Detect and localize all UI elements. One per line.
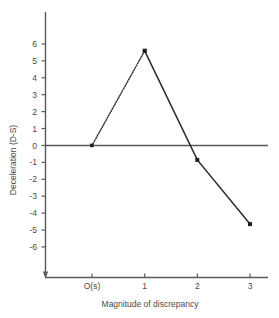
chart-container: 6 5 4 3 2 1 0 -1 -2 -3 -4 -5 -6 O(s) 1 2… xyxy=(0,0,279,318)
y-tick-label: 5 xyxy=(32,56,37,66)
y-tick-labels: 6 5 4 3 2 1 0 -1 -2 -3 -4 -5 -6 xyxy=(29,39,37,252)
x-tick-label: 1 xyxy=(142,281,147,291)
y-tick-label: -4 xyxy=(29,208,37,218)
y-tick-label: 4 xyxy=(32,73,37,83)
series-segment-solid xyxy=(145,51,250,224)
y-tick-label: 6 xyxy=(32,39,37,49)
x-tick-labels: O(s) 1 2 3 xyxy=(84,281,253,291)
y-axis-title: Deceleration (D-S) xyxy=(8,125,18,196)
y-tick-label: 2 xyxy=(32,107,37,117)
data-point-marker xyxy=(90,144,94,148)
y-tick-label: 0 xyxy=(32,141,37,151)
series-segment-dotted xyxy=(92,51,145,146)
y-tick-label: -5 xyxy=(29,225,37,235)
x-tick-label: 3 xyxy=(248,281,253,291)
y-tick-label: -2 xyxy=(29,174,37,184)
data-point-marker xyxy=(195,158,199,162)
y-tick-label: 3 xyxy=(32,90,37,100)
y-tick-label: 1 xyxy=(32,124,37,134)
data-point-markers xyxy=(90,49,252,226)
y-tick-label: -1 xyxy=(29,157,37,167)
x-tick-label: O(s) xyxy=(84,281,101,291)
y-tick-label: -6 xyxy=(29,242,37,252)
x-axis-title: Magnitude of discrepancy xyxy=(102,299,200,309)
x-tick-label: 2 xyxy=(195,281,200,291)
data-point-marker xyxy=(248,222,252,226)
data-point-marker xyxy=(143,49,147,53)
y-tick-label: -3 xyxy=(29,191,37,201)
deceleration-line-chart: 6 5 4 3 2 1 0 -1 -2 -3 -4 -5 -6 O(s) 1 2… xyxy=(0,0,279,318)
